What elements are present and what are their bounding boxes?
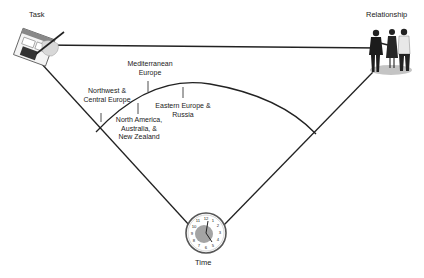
region-line: Russia <box>150 111 216 120</box>
region-line: Central Europe <box>76 96 138 105</box>
region-line: Eastern Europe & <box>150 102 216 111</box>
diagram-canvas: 12 1 2 3 4 5 6 7 8 9 10 11 Task Relation… <box>0 0 424 278</box>
time-label: Time <box>195 258 211 267</box>
people-meeting-icon <box>369 29 412 75</box>
region-line: Europe <box>120 69 180 78</box>
task-relationship-line <box>40 45 380 48</box>
region-line: Australia, & <box>108 125 170 134</box>
region-line: New Zealand <box>108 133 170 142</box>
region-north-america: North America, Australia, & New Zealand <box>108 116 170 142</box>
region-eastern: Eastern Europe & Russia <box>150 102 216 119</box>
region-line: Mediterranean <box>120 60 180 69</box>
clock-number: 10 <box>192 224 197 229</box>
clock-number: 12 <box>204 216 209 221</box>
clock-icon: 12 1 2 3 4 5 6 7 8 9 10 11 <box>186 213 226 253</box>
relationship-time-line <box>223 72 373 226</box>
clock-number: 11 <box>196 218 201 223</box>
task-label: Task <box>29 10 44 19</box>
region-mediterranean: Mediterranean Europe <box>120 60 180 77</box>
task-icon <box>13 28 64 66</box>
region-line: Northwest & <box>76 87 138 96</box>
region-northwest: Northwest & Central Europe <box>76 87 138 104</box>
relationship-label: Relationship <box>366 10 407 19</box>
triangle-diagram: 12 1 2 3 4 5 6 7 8 9 10 11 <box>0 0 424 278</box>
